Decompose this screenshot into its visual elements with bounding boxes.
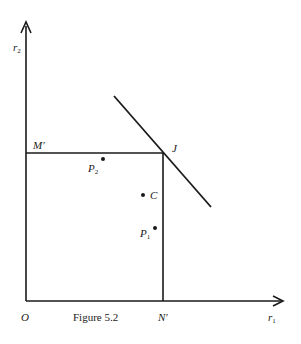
point-p1 <box>153 226 157 230</box>
point-c <box>141 193 145 197</box>
y-axis-label-sub: 2 <box>17 47 21 55</box>
figure-caption: Figure 5.2 <box>73 312 118 323</box>
p2-label-sub: 2 <box>95 168 99 176</box>
c-label: C <box>150 190 157 201</box>
figure-canvas <box>0 0 301 344</box>
p1-label-sub: 1 <box>147 233 151 241</box>
point-p2 <box>101 157 105 161</box>
x-axis-label: r1 <box>268 312 276 325</box>
j-label: J <box>172 143 177 154</box>
m-prime-label: M′ <box>33 140 45 151</box>
p1-label-main: P <box>140 227 147 239</box>
n-prime-label: N′ <box>158 312 168 323</box>
origin-label: O <box>21 312 29 323</box>
p2-label: P2 <box>88 163 98 176</box>
p2-label-main: P <box>88 162 95 174</box>
p1-label: P1 <box>140 228 150 241</box>
y-axis-label: r2 <box>13 42 21 55</box>
x-axis-label-sub: 1 <box>272 317 276 325</box>
